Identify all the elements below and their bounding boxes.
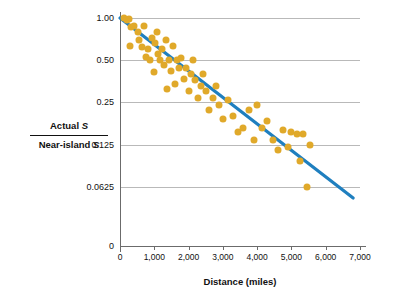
scatter-point <box>190 57 197 64</box>
scatter-point <box>202 88 209 95</box>
scatter-point <box>264 117 271 124</box>
y-tick-label: 0.50 <box>72 55 114 65</box>
scatter-point <box>127 43 134 50</box>
x-tick-label: 7,000 <box>349 252 370 262</box>
x-tick-label: 5,000 <box>281 252 302 262</box>
scatter-point <box>145 46 152 53</box>
scatter-point <box>166 57 173 64</box>
y-tick-label-zero: 0 <box>72 241 114 251</box>
y-axis-label-numerator: Actual S <box>30 120 108 134</box>
scatter-point <box>250 136 257 143</box>
x-tick-label: 3,000 <box>212 252 233 262</box>
scatter-point <box>167 67 174 74</box>
scatter-point <box>209 94 216 101</box>
scatter-point <box>141 22 148 29</box>
scatter-point <box>159 46 166 53</box>
scatter-point <box>185 88 192 95</box>
x-axis-title: Distance (miles) <box>120 276 360 287</box>
scatter-point <box>297 158 304 165</box>
scatter-point <box>259 124 266 131</box>
scatter-point <box>162 36 169 43</box>
scatter-point <box>163 86 170 93</box>
scatter-point <box>150 69 157 76</box>
scatter-point <box>245 107 252 114</box>
scatter-point <box>134 28 141 35</box>
x-tick-label: 1,000 <box>144 252 165 262</box>
scatter-point <box>171 80 178 87</box>
scatter-point <box>206 107 213 114</box>
x-tick-label: 6,000 <box>315 252 336 262</box>
scatter-point <box>307 141 314 148</box>
scatter-point <box>303 184 310 191</box>
scatter-point <box>151 40 158 47</box>
chart-figure: Actual S Near-island S 0.06250.1250.250.… <box>0 0 406 303</box>
scatter-point <box>213 82 220 89</box>
scatter-point <box>230 113 237 120</box>
scatter-point <box>225 97 232 104</box>
scatter-point <box>169 43 176 50</box>
scatter-point <box>175 64 182 71</box>
x-tick-label: 2,000 <box>178 252 199 262</box>
y-tick-label: 1.00 <box>72 13 114 23</box>
y-axis-label-divider <box>30 135 108 137</box>
plot-area: 0.06250.1250.250.501.000 01,0002,0003,00… <box>120 18 360 246</box>
scatter-point <box>274 146 281 153</box>
y-tick-label: 0.125 <box>72 140 114 150</box>
scatter-point <box>300 130 307 137</box>
scatter-point <box>216 101 223 108</box>
x-tick-label: 4,000 <box>247 252 268 262</box>
scatter-point <box>285 144 292 151</box>
scatter-point <box>269 136 276 143</box>
scatter-point <box>178 54 185 61</box>
scatter-point <box>279 126 286 133</box>
scatter-point <box>136 36 143 43</box>
y-tick-label: 0.0625 <box>72 182 114 192</box>
scatter-point <box>219 116 226 123</box>
y-tick-label: 0.25 <box>72 97 114 107</box>
x-tick-label: 0 <box>118 252 123 262</box>
scatter-point <box>194 94 201 101</box>
scatter-point <box>180 75 187 82</box>
scatter-point <box>154 28 161 35</box>
scatter-point <box>147 57 154 64</box>
scatter-point <box>240 124 247 131</box>
scatter-point <box>125 15 132 22</box>
scatter-point <box>254 101 261 108</box>
scatter-point <box>199 70 206 77</box>
